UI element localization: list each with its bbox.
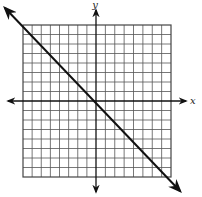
coordinate-plane: x y <box>0 0 202 197</box>
data-line <box>5 8 180 191</box>
y-axis-label: y <box>91 0 98 10</box>
x-axis-label: x <box>190 95 196 106</box>
